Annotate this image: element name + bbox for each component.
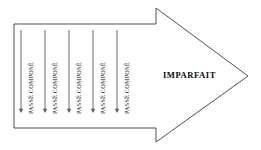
imparfait-label: IMPARFAIT bbox=[163, 71, 216, 80]
diagram-canvas: IMPARFAIT PASSÉ COMPOSÉPASSÉ COMPOSÉPASS… bbox=[0, 0, 261, 150]
passe-compose-label: PASSÉ COMPOSÉ bbox=[52, 62, 58, 114]
arrow-diagram-svg bbox=[0, 0, 261, 150]
passe-compose-label: PASSÉ COMPOSÉ bbox=[76, 62, 82, 114]
passe-compose-label: PASSÉ COMPOSÉ bbox=[28, 62, 34, 114]
passe-compose-label: PASSÉ COMPOSÉ bbox=[124, 62, 130, 114]
passe-compose-label: PASSÉ COMPOSÉ bbox=[100, 62, 106, 114]
